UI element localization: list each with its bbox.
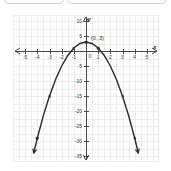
plotted-point xyxy=(121,95,124,98)
plotted-point xyxy=(85,41,88,44)
plotted-point xyxy=(133,137,136,140)
answer-choice-b[interactable] xyxy=(67,0,167,4)
plotted-point xyxy=(73,47,76,50)
plotted-point xyxy=(97,47,100,50)
vertex-point-label: (0, 3) xyxy=(91,36,104,42)
answer-choice-bar xyxy=(0,0,171,4)
answer-choice-a[interactable] xyxy=(4,0,64,4)
screenshot-root: -5-4-3-2-1012345105-5-10-15-20-25-30-35x… xyxy=(0,0,171,171)
graph-plot-area: -5-4-3-2-1012345105-5-10-15-20-25-30-35x… xyxy=(13,15,159,162)
plotted-point xyxy=(48,95,51,98)
parabola-path xyxy=(34,42,139,153)
plotted-point xyxy=(36,137,39,140)
parabola-curve xyxy=(13,15,159,162)
